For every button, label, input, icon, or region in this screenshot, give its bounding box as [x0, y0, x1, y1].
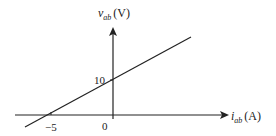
iv-characteristic-diagram: vab(V) iab(A) 10 −5 0 [0, 0, 276, 136]
x-tick-label: −5 [45, 121, 57, 133]
characteristic-line [25, 37, 191, 127]
y-axis-label: vab(V) [98, 6, 130, 22]
x-axis-label: iab(A) [231, 109, 261, 125]
origin-label: 0 [102, 120, 108, 132]
y-tick-label: 10 [94, 74, 106, 86]
